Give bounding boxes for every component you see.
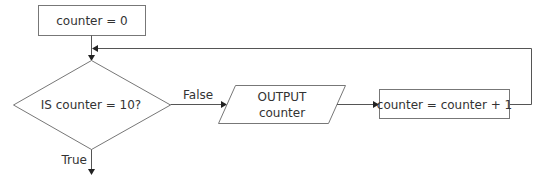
edge-decision-to-output-false: False	[171, 88, 228, 108]
edge-decision-true-exit: True	[61, 150, 96, 176]
false-label: False	[183, 88, 213, 102]
true-label: True	[61, 153, 88, 167]
increment-process-node: counter = counter + 1	[377, 90, 512, 119]
decision-node-text: IS counter = 10?	[41, 98, 141, 112]
arrow-down-icon	[88, 169, 95, 175]
flowchart-canvas: counter = 0 IS counter = 10? False OUTPU…	[0, 0, 544, 183]
init-process-node: counter = 0	[39, 6, 146, 36]
init-node-text: counter = 0	[56, 14, 128, 28]
output-node-line1: OUTPUT	[258, 90, 308, 104]
decision-node: IS counter = 10?	[14, 61, 171, 150]
edge-output-to-increment	[337, 101, 379, 108]
output-io-node: OUTPUT counter	[219, 86, 346, 124]
arrow-left-icon	[92, 45, 98, 52]
output-node-line2: counter	[259, 106, 305, 120]
increment-node-text: counter = counter + 1	[377, 98, 512, 112]
